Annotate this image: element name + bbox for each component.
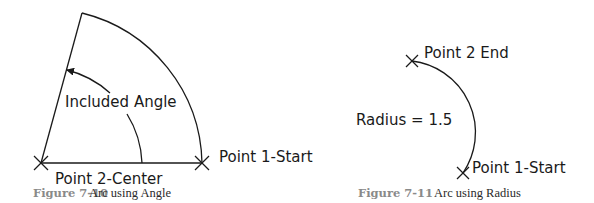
figure-title-right: Arc using Radius [434,186,521,200]
angle-arrow-upper [67,70,110,93]
figure-number-right: Figure 7-11 [358,186,433,200]
end-point-label: Point 2 End [424,44,509,62]
figure-arc-using-angle: Included Angle Point 2-Center Point 1-St… [33,13,313,200]
figure-arc-using-radius: Point 2 End Radius = 1.5 Point 1-Start F… [356,44,566,200]
outer-arc [82,13,202,163]
radius-label: Radius = 1.5 [356,111,452,129]
angle-arc-lower [127,114,142,163]
start-point-label: Point 1-Start [219,148,313,166]
included-angle-label: Included Angle [65,93,177,111]
start-point-label-right: Point 1-Start [472,159,566,177]
start-point-marker-icon-right [457,167,469,179]
diagram-canvas: Included Angle Point 2-Center Point 1-St… [0,0,594,203]
figure-title-left: Arc using Angle [89,186,171,200]
radial-segment [41,13,82,163]
